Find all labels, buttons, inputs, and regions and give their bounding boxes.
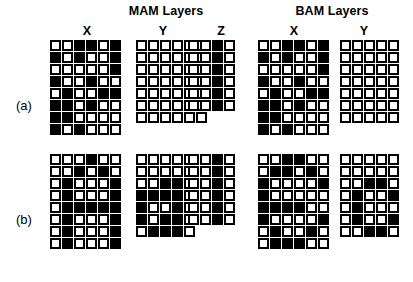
neuron-cell-off: [224, 88, 235, 99]
neuron-cell-off: [376, 64, 387, 75]
neuron-cell-on: [212, 214, 223, 225]
neuron-cell-off: [110, 124, 121, 135]
neuron-cell-off: [172, 88, 183, 99]
neuron-cell-off: [376, 154, 387, 165]
neuron-cell-on: [62, 202, 73, 213]
neuron-cell-off: [282, 100, 293, 111]
neuron-cell-off: [98, 76, 109, 87]
neuron-cell-off: [62, 40, 73, 51]
neuron-cell-on: [258, 52, 269, 63]
neuron-cell-off: [352, 166, 363, 177]
neuron-cell-off: [98, 178, 109, 189]
grid-a-mam-x: [50, 40, 121, 135]
neuron-cell-on: [148, 226, 159, 237]
neuron-cell-off: [74, 190, 85, 201]
neuron-cell-off: [340, 112, 351, 123]
neuron-cell-off: [270, 40, 281, 51]
neuron-cell-on: [270, 226, 281, 237]
neuron-cell-off: [258, 88, 269, 99]
neuron-cell-on: [62, 190, 73, 201]
neuron-cell-on: [74, 166, 85, 177]
neuron-cell-on: [258, 76, 269, 87]
neuron-cell-on: [282, 52, 293, 63]
neuron-cell-off: [318, 124, 329, 135]
neuron-cell-off: [148, 76, 159, 87]
neuron-cell-off: [294, 166, 305, 177]
neuron-cell-on: [160, 178, 171, 189]
column-letter-bam-x: X: [282, 24, 306, 38]
neuron-cell-off: [294, 88, 305, 99]
neuron-cell-off: [270, 178, 281, 189]
neuron-cell-off: [388, 64, 399, 75]
neuron-cell-off: [340, 88, 351, 99]
neuron-cell-on: [74, 40, 85, 51]
neuron-cell-off: [258, 226, 269, 237]
neuron-cell-off: [148, 52, 159, 63]
neuron-cell-off: [148, 40, 159, 51]
neuron-cell-off: [306, 40, 317, 51]
neuron-cell-off: [86, 124, 97, 135]
row-label-a: (a): [16, 98, 32, 113]
neuron-cell-on: [172, 202, 183, 213]
neuron-cell-off: [364, 40, 375, 51]
neuron-cell-off: [62, 166, 73, 177]
neuron-cell-off: [224, 76, 235, 87]
neuron-cell-off: [136, 178, 147, 189]
neuron-cell-off: [50, 238, 61, 249]
neuron-cell-off: [270, 76, 281, 87]
neuron-cell-on: [110, 226, 121, 237]
grid-b-mam-y: [136, 154, 195, 237]
neuron-cell-on: [294, 202, 305, 213]
neuron-cell-on: [62, 238, 73, 249]
neuron-cell-on: [376, 226, 387, 237]
neuron-cell-off: [184, 112, 195, 123]
neuron-cell-off: [110, 154, 121, 165]
neuron-cell-on: [98, 202, 109, 213]
neuron-cell-on: [212, 40, 223, 51]
neuron-cell-on: [110, 190, 121, 201]
neuron-cell-on: [136, 214, 147, 225]
neuron-cell-off: [110, 76, 121, 87]
neuron-cell-off: [98, 226, 109, 237]
neuron-cell-on: [62, 214, 73, 225]
neuron-cell-off: [196, 112, 207, 123]
neuron-cell-on: [136, 202, 147, 213]
neuron-cell-off: [388, 76, 399, 87]
neuron-cell-off: [340, 40, 351, 51]
neuron-cell-on: [294, 40, 305, 51]
neuron-cell-on: [172, 190, 183, 201]
neuron-cell-off: [110, 100, 121, 111]
neuron-cell-off: [136, 64, 147, 75]
neuron-cell-off: [200, 202, 211, 213]
neuron-cell-off: [136, 166, 147, 177]
neuron-cell-off: [376, 76, 387, 87]
neuron-cell-off: [388, 100, 399, 111]
neuron-cell-off: [376, 112, 387, 123]
neuron-cell-on: [50, 100, 61, 111]
neuron-cell-off: [340, 64, 351, 75]
neuron-cell-off: [388, 166, 399, 177]
neuron-cell-off: [160, 112, 171, 123]
neuron-cell-on: [318, 214, 329, 225]
neuron-cell-off: [352, 88, 363, 99]
neuron-cell-on: [86, 76, 97, 87]
grid-b-bam-x: [258, 154, 329, 249]
neuron-cell-off: [352, 76, 363, 87]
neuron-cell-on: [212, 64, 223, 75]
neuron-cell-off: [294, 190, 305, 201]
neuron-cell-on: [62, 88, 73, 99]
neuron-cell-off: [98, 238, 109, 249]
neuron-cell-off: [306, 76, 317, 87]
neuron-cell-off: [306, 214, 317, 225]
neuron-cell-on: [86, 154, 97, 165]
neuron-cell-on: [258, 100, 269, 111]
neuron-cell-off: [282, 190, 293, 201]
neuron-cell-off: [86, 238, 97, 249]
neuron-cell-off: [188, 100, 199, 111]
neuron-cell-off: [282, 112, 293, 123]
neuron-cell-off: [50, 166, 61, 177]
neuron-cell-on: [306, 166, 317, 177]
neuron-cell-on: [318, 178, 329, 189]
neuron-cell-off: [148, 178, 159, 189]
neuron-cell-off: [74, 154, 85, 165]
